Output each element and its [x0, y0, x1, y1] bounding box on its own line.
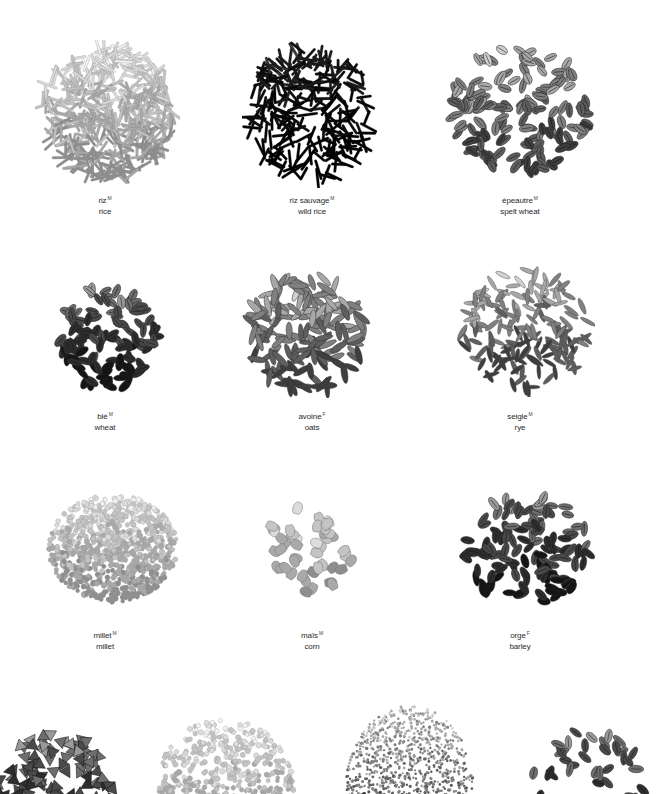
gender-marker: F — [527, 630, 530, 636]
english-term: millet — [5, 641, 205, 652]
gender-marker: M — [529, 411, 533, 417]
cereal-label: avoineF oats — [212, 409, 412, 433]
french-term: riz sauvageM — [212, 193, 412, 206]
french-term: maïsM — [212, 628, 412, 641]
cereal-label: rizM rice — [5, 193, 205, 217]
cereal-label: épeautreM spelt wheat — [420, 193, 620, 217]
rye-grain-pile-image — [455, 262, 595, 397]
gender-marker: M — [319, 630, 323, 636]
wild-rice-grain-pile-image — [242, 38, 377, 188]
english-term: oats — [212, 422, 412, 433]
wheat-grain-pile-image — [53, 280, 165, 395]
english-term: corn — [212, 641, 412, 652]
english-term: wild rice — [212, 206, 412, 217]
french-term: avoineF — [212, 409, 412, 422]
french-term: milletM — [5, 628, 205, 641]
gender-marker: M — [330, 195, 334, 201]
french-term: bléM — [5, 409, 205, 422]
french-term: seigleM — [420, 409, 620, 422]
gender-marker: F — [323, 411, 326, 417]
cereal-label: orgeF barley — [420, 628, 620, 652]
spelt-grain-pile-image — [445, 40, 595, 180]
rice-grain-pile-image — [35, 40, 180, 185]
english-term: rice — [5, 206, 205, 217]
cereal-label: maïsM corn — [212, 628, 412, 652]
french-term: épeautreM — [420, 193, 620, 206]
french-term: orgeF — [420, 628, 620, 641]
gender-marker: M — [108, 195, 112, 201]
millet-grain-pile-image — [43, 488, 183, 608]
french-term: rizM — [5, 193, 205, 206]
cereal-label: seigleM rye — [420, 409, 620, 433]
oats-grain-pile-image — [242, 268, 372, 398]
gender-marker: M — [534, 195, 538, 201]
english-term: wheat — [5, 422, 205, 433]
gender-marker: M — [109, 411, 113, 417]
english-term: rye — [420, 422, 620, 433]
amaranth-grain-pile-image — [340, 700, 480, 794]
cereal-label: milletM millet — [5, 628, 205, 652]
barley-grain-pile-image — [458, 488, 596, 613]
english-term: spelt wheat — [420, 206, 620, 217]
cereal-label: bléM wheat — [5, 409, 205, 433]
english-term: barley — [420, 641, 620, 652]
corn-grain-pile-image — [260, 498, 360, 598]
triticale-grain-pile-image — [525, 720, 650, 794]
buckwheat-grain-pile-image — [0, 725, 120, 794]
quinoa-grain-pile-image — [150, 712, 300, 794]
cereal-label: riz sauvageM wild rice — [212, 193, 412, 217]
gender-marker: M — [113, 630, 117, 636]
